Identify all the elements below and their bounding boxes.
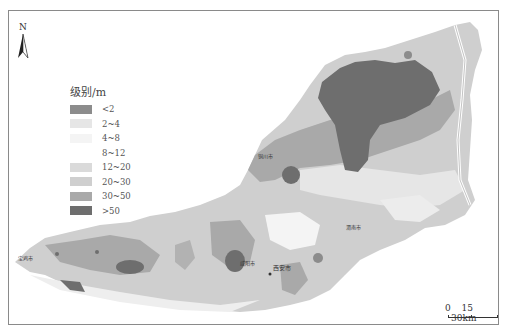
legend-label: 20~30: [102, 177, 131, 187]
legend-label: 2~4: [102, 119, 120, 129]
legend-swatch: [70, 119, 92, 128]
legend-swatch: [70, 177, 92, 186]
city-label-xianyang: 咸阳市: [240, 259, 255, 266]
scale-bar: 0 15 30km: [445, 303, 507, 323]
city-label-baoji: 宝鸡市: [18, 254, 33, 261]
legend-item: <2: [70, 102, 131, 117]
legend-label: 30~50: [102, 191, 131, 201]
city-label-tongchuan: 铜川市: [258, 152, 273, 159]
legend-swatch: [70, 163, 92, 172]
legend-label: <2: [102, 104, 115, 114]
north-arrow: N: [17, 22, 33, 60]
legend-item: 4~8: [70, 131, 131, 146]
legend-swatch: [70, 148, 92, 157]
legend-item: 8~12: [70, 146, 131, 161]
legend-item: 2~4: [70, 117, 131, 132]
legend-item: >50: [70, 204, 131, 219]
north-arrow-icon: [17, 32, 33, 62]
legend-item: 12~20: [70, 160, 131, 175]
city-label-weinan: 渭南市: [346, 223, 361, 230]
scale-bar-line: [448, 315, 498, 318]
legend-swatch: [70, 105, 92, 114]
scale-bar-mid-tick: [471, 315, 472, 318]
scale-tick-15: 15: [462, 303, 473, 313]
legend-swatch: [70, 134, 92, 143]
legend-label: 12~20: [102, 162, 131, 172]
north-label: N: [19, 22, 27, 32]
legend-swatch: [70, 206, 92, 215]
legend-label: 8~12: [102, 148, 125, 158]
legend-swatch: [70, 192, 92, 201]
legend-item: 20~30: [70, 175, 131, 190]
legend-label: >50: [102, 206, 120, 216]
legend: 级别/m <2 2~4 4~8 8~12 12~20 20~30 30~50 >…: [70, 83, 131, 218]
legend-label: 4~8: [102, 133, 120, 143]
city-label-xian: 西安市: [273, 263, 291, 272]
legend-title: 级别/m: [70, 83, 131, 99]
scale-tick-0: 0: [445, 303, 451, 313]
legend-item: 30~50: [70, 189, 131, 204]
